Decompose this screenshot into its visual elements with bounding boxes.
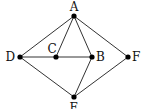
- node-label-d: D: [5, 50, 15, 64]
- edge-a-c: [56, 16, 74, 57]
- node-f: [125, 54, 130, 59]
- node-b: [89, 54, 94, 59]
- node-label-f: F: [132, 50, 140, 64]
- graph-diagram: ABCDEF: [0, 0, 141, 109]
- edges: [20, 16, 128, 97]
- node-label-b: B: [96, 50, 105, 64]
- node-label-e: E: [70, 101, 79, 109]
- node-d: [17, 54, 22, 59]
- edge-a-b: [74, 16, 92, 57]
- edge-d-e: [20, 57, 74, 97]
- node-e: [71, 94, 76, 99]
- node-label-c: C: [47, 42, 56, 56]
- node-a: [71, 13, 76, 18]
- node-label-a: A: [69, 0, 79, 14]
- edge-b-e: [74, 57, 92, 97]
